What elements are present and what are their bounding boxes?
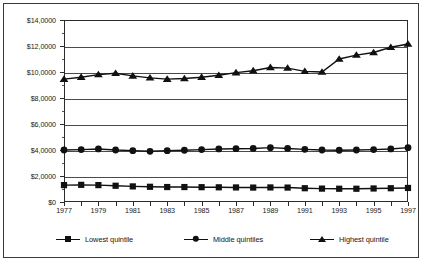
data-point-marker: [405, 185, 411, 191]
data-point-marker: [199, 184, 205, 190]
y-tick-label: $10,0000: [27, 68, 56, 77]
data-point-marker: [112, 147, 119, 154]
x-tick-label: 1979: [91, 206, 107, 215]
x-tick-label: 1989: [263, 206, 279, 215]
data-point-marker: [301, 146, 308, 153]
y-tick-label: $2,0000: [31, 172, 56, 181]
data-point-marker: [405, 144, 412, 151]
data-point-marker: [353, 147, 360, 154]
data-point-marker: [147, 148, 154, 155]
x-tick-label: 1981: [125, 206, 141, 215]
circle-marker-icon: [184, 233, 208, 245]
x-tick-label: 1991: [297, 206, 313, 215]
data-point-marker: [95, 146, 102, 153]
legend-glyph-square: [65, 236, 71, 242]
data-point-marker: [267, 184, 273, 190]
x-tick-label: 1993: [331, 206, 347, 215]
data-point-marker: [164, 184, 170, 190]
data-point-marker: [336, 186, 342, 192]
data-point-marker: [319, 147, 326, 154]
data-point-marker: [250, 184, 256, 190]
legend-label: Middle quintiles: [213, 235, 263, 244]
x-axis: 1977197919811983198519871989199119931995…: [64, 206, 408, 218]
legend-label: Lowest quintile: [85, 235, 133, 244]
series-circle: [61, 144, 412, 154]
x-tick-label: 1995: [366, 206, 382, 215]
legend-label: Highest quintile: [339, 235, 389, 244]
legend-glyph-circle: [193, 236, 199, 242]
data-point-marker: [61, 147, 68, 154]
x-tick-label: 1977: [56, 206, 72, 215]
series-layer: [64, 20, 408, 202]
data-point-marker: [164, 147, 171, 154]
data-point-marker: [198, 146, 205, 153]
data-point-marker: [181, 147, 188, 154]
x-tick-label: 1983: [159, 206, 175, 215]
y-tick-label: $4,0000: [31, 146, 56, 155]
data-point-marker: [61, 182, 67, 188]
square-marker-icon: [56, 233, 80, 245]
data-point-marker: [370, 146, 377, 153]
data-point-marker: [387, 146, 394, 153]
x-tick-label: 1987: [228, 206, 244, 215]
data-point-marker: [216, 184, 222, 190]
data-point-marker: [233, 184, 239, 190]
legend-entry-triangle[interactable]: Highest quintile: [310, 232, 389, 246]
data-point-marker: [78, 182, 84, 188]
data-point-marker: [336, 147, 343, 154]
data-point-marker: [147, 184, 153, 190]
x-tick-label: 1997: [400, 206, 416, 215]
data-point-marker: [215, 146, 222, 153]
data-point-marker: [284, 145, 291, 152]
x-tick-label: 1985: [194, 206, 210, 215]
data-point-marker: [388, 185, 394, 191]
data-point-marker: [302, 185, 308, 191]
data-point-marker: [78, 146, 85, 153]
data-point-marker: [353, 186, 359, 192]
legend-entry-square[interactable]: Lowest quintile: [56, 232, 133, 246]
data-point-marker: [111, 69, 120, 76]
y-tick-label: $14,0000: [27, 16, 56, 25]
series-square: [61, 182, 411, 192]
legend-glyph-triangle: [318, 236, 326, 242]
data-point-marker: [113, 183, 119, 189]
data-point-marker: [95, 182, 101, 188]
y-tick-label: $6,0000: [31, 120, 56, 129]
data-point-marker: [267, 144, 274, 151]
data-point-marker: [371, 185, 377, 191]
data-point-marker: [233, 145, 240, 152]
y-tick-label: $0: [48, 198, 56, 207]
data-point-marker: [130, 183, 136, 189]
chart-legend: Lowest quintileMiddle quintilesHighest q…: [56, 232, 366, 248]
data-point-marker: [250, 145, 257, 152]
y-axis: $0$2,0000$4,0000$6,0000$8,0000$10,0000$1…: [0, 20, 64, 202]
triangle-marker-icon: [310, 233, 334, 245]
y-tick-label: $12,0000: [27, 42, 56, 51]
legend-entry-circle[interactable]: Middle quintiles: [184, 232, 263, 246]
chart-figure: $0$2,0000$4,0000$6,0000$8,0000$10,0000$1…: [0, 0, 425, 265]
data-point-marker: [181, 184, 187, 190]
series-triangle: [60, 40, 413, 82]
data-point-marker: [285, 184, 291, 190]
y-tick-label: $8,0000: [31, 94, 56, 103]
data-point-marker: [319, 186, 325, 192]
data-point-marker: [129, 147, 136, 154]
